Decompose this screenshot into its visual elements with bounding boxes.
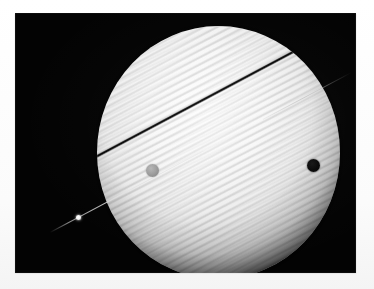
moon-shadow-disk [307,159,320,172]
moon-transit-disk [146,164,159,177]
saturn-planet-disk [97,26,340,273]
moon-on-ring-point [76,215,81,220]
image-canvas: Saturn with edge-on rings, transiting mo… [0,0,374,289]
astronomical-photo [15,13,356,273]
limb-darkening-overlay [97,26,340,273]
